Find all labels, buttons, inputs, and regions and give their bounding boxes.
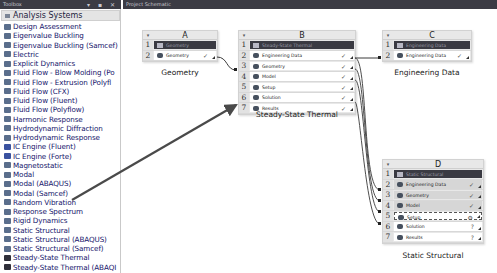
- tool-item-response-spectrum[interactable]: Response Spectrum: [3, 207, 120, 216]
- tool-item-fluid-flow-extrusion[interactable]: Fluid Flow - Extrusion (Polyfl: [3, 78, 120, 87]
- tool-item-rigid-dynamics[interactable]: Rigid Dynamics: [3, 216, 120, 225]
- model-icon: [397, 203, 403, 208]
- connector-handle-icon[interactable]: [350, 87, 353, 90]
- cell-d3-geometry[interactable]: 3Geometry✓: [383, 190, 483, 201]
- tool-item-label: Eigenvalue Buckling: [13, 31, 84, 40]
- cell-text: Steady-State Thermal: [262, 41, 312, 51]
- check-icon: ✓: [341, 62, 346, 72]
- cell-a1[interactable]: 1Geometry: [143, 40, 217, 51]
- connector-handle-icon[interactable]: [466, 56, 469, 59]
- system-menu-arrow-icon[interactable]: ▾: [383, 31, 393, 40]
- connector-handle-icon[interactable]: [478, 206, 481, 209]
- tool-item-hydrodynamic-response[interactable]: Hydrodynamic Response: [3, 133, 120, 142]
- connector-handle-icon[interactable]: [350, 98, 353, 101]
- cell-c2-engineering-data[interactable]: 2Engineering Data✓: [383, 51, 471, 62]
- cell-b3-geometry[interactable]: 3Geometry✓: [239, 61, 355, 72]
- connector-handle-icon[interactable]: [477, 215, 480, 218]
- engineering-data-system-icon: [397, 43, 403, 48]
- connector-handle-icon[interactable]: [212, 56, 215, 59]
- tool-item-design-assessment[interactable]: Design Assessment: [3, 22, 120, 31]
- thermal-system-icon: [253, 43, 259, 48]
- system-menu-arrow-icon[interactable]: ▾: [143, 31, 153, 40]
- tool-item-fluid-flow-fluent[interactable]: Fluid Flow (Fluent): [3, 96, 120, 105]
- cell-text: Engineering Data: [262, 51, 302, 61]
- connector-handle-icon[interactable]: [350, 77, 353, 80]
- cell-c1[interactable]: 1Engineering Data: [383, 40, 471, 51]
- cell-b2-engineering-data[interactable]: 2Engineering Data✓: [239, 51, 355, 62]
- geometry-system-icon: [157, 43, 163, 48]
- tool-item-electric[interactable]: Electric: [3, 50, 120, 59]
- cell-b1[interactable]: 1Steady-State Thermal: [239, 40, 355, 51]
- connector-handle-icon[interactable]: [478, 185, 481, 188]
- row-number: 4: [383, 201, 393, 211]
- cell-text: Model: [262, 72, 276, 82]
- tool-item-fluid-flow-blow-molding[interactable]: Fluid Flow - Blow Molding (Po: [3, 68, 120, 77]
- system-header[interactable]: ▾ D: [383, 160, 483, 169]
- cell-b4-model[interactable]: 4Model✓: [239, 72, 355, 83]
- tool-item-label: Magnetostatic: [13, 161, 63, 170]
- tool-item-random-vibration[interactable]: Random Vibration: [3, 198, 120, 207]
- cell-d1[interactable]: 1Static Structural: [383, 169, 483, 180]
- toolbox-panel: Toolbox ▾ ▪ ✕ Analysis Systems Design As…: [0, 0, 121, 273]
- tool-item-modal-abaqus[interactable]: Modal (ABAQUS): [3, 179, 120, 188]
- analysis-icon: [4, 24, 11, 30]
- tool-item-hydrodynamic-diffraction[interactable]: Hydrodynamic Diffraction: [3, 124, 120, 133]
- connector-handle-icon[interactable]: [350, 66, 353, 69]
- tool-item-magnetostatic[interactable]: Magnetostatic: [3, 161, 120, 170]
- tool-item-label: Rigid Dynamics: [13, 216, 67, 225]
- tool-item-ic-engine-fluent[interactable]: IC Engine (Fluent): [3, 142, 120, 151]
- system-header[interactable]: ▾ A: [143, 31, 217, 40]
- system-d-label[interactable]: Static Structural: [382, 251, 484, 260]
- system-c-label[interactable]: Engineering Data: [382, 68, 472, 77]
- analysis-icon: [4, 70, 11, 76]
- connector-handle-icon[interactable]: [478, 227, 481, 230]
- cell-text: Solution: [406, 222, 425, 232]
- tool-item-ic-engine-forte[interactable]: IC Engine (Forte): [3, 152, 120, 161]
- cell-d7-results[interactable]: 7Results?: [383, 232, 483, 243]
- system-a-geometry[interactable]: ▾ A 1Geometry 2Geometry✓: [142, 30, 218, 62]
- tool-item-fluid-flow-polyflow[interactable]: Fluid Flow (Polyflow): [3, 105, 120, 114]
- cell-d5-setup[interactable]: 5Setup⚙: [383, 211, 483, 222]
- cell-d4-model[interactable]: 4Model✓: [383, 201, 483, 212]
- tool-item-fluid-flow-cfx[interactable]: Fluid Flow (CFX): [3, 87, 120, 96]
- tool-item-eigenvalue-buckling-samcef[interactable]: Eigenvalue Buckling (Samcef): [3, 41, 120, 50]
- tool-item-static-structural[interactable]: Static Structural: [3, 226, 120, 235]
- check-icon: ✓: [341, 51, 346, 61]
- cell-d2-engineering-data[interactable]: 2Engineering Data✓: [383, 180, 483, 191]
- connector-handle-icon[interactable]: [478, 237, 481, 240]
- system-c-engineering-data[interactable]: ▾ C 1Engineering Data 2Engineering Data✓: [382, 30, 472, 62]
- cell-a2-geometry[interactable]: 2Geometry✓: [143, 51, 217, 62]
- tool-item-harmonic-response[interactable]: Harmonic Response: [3, 115, 120, 124]
- system-menu-arrow-icon[interactable]: ▾: [239, 31, 249, 40]
- tool-item-steady-state-thermal[interactable]: Steady-State Thermal: [3, 253, 120, 262]
- tool-item-label: Modal (Samcef): [13, 189, 68, 198]
- tool-item-modal-samcef[interactable]: Modal (Samcef): [3, 189, 120, 198]
- tool-item-steady-state-thermal-abaqus[interactable]: Steady-State Thermal (ABAQI: [3, 263, 120, 272]
- connector-handle-icon[interactable]: [478, 195, 481, 198]
- system-b-steady-state-thermal[interactable]: ▾ B 1Steady-State Thermal 2Engineering D…: [238, 30, 356, 115]
- cell-d6-solution[interactable]: 6Solution?: [383, 222, 483, 233]
- toolbox-window-buttons[interactable]: ▾ ▪ ✕: [87, 0, 118, 9]
- system-a-label[interactable]: Geometry: [142, 68, 218, 77]
- tool-item-modal[interactable]: Modal: [3, 170, 120, 179]
- analysis-icon: [4, 218, 11, 224]
- system-d-static-structural[interactable]: ▾ D 1Static Structural 2Engineering Data…: [382, 159, 484, 244]
- tool-item-eigenvalue-buckling[interactable]: Eigenvalue Buckling: [3, 31, 120, 40]
- tool-item-explicit-dynamics[interactable]: Explicit Dynamics: [3, 59, 120, 68]
- system-header[interactable]: ▾ C: [383, 31, 471, 40]
- system-b-label[interactable]: Steady-State Thermal: [238, 110, 356, 119]
- system-header[interactable]: ▾ B: [239, 31, 355, 40]
- analysis-icon: [4, 98, 11, 104]
- toolbox-title-bar: Toolbox ▾ ▪ ✕: [0, 0, 121, 9]
- collapse-icon[interactable]: [5, 14, 10, 18]
- cell-b6-solution[interactable]: 6Solution✓: [239, 93, 355, 104]
- connector-handle-icon[interactable]: [350, 56, 353, 59]
- tool-item-static-structural-samcef[interactable]: Static Structural (Samcef): [3, 244, 120, 253]
- tool-item-static-structural-abaqus[interactable]: Static Structural (ABAQUS): [3, 235, 120, 244]
- tool-item-label: Steady-State Thermal (ABAQI: [13, 263, 116, 272]
- analysis-systems-group[interactable]: Analysis Systems: [1, 10, 120, 21]
- tool-item-label: Response Spectrum: [13, 207, 83, 216]
- solution-icon: [253, 95, 259, 100]
- system-menu-arrow-icon[interactable]: ▾: [383, 160, 393, 169]
- cell-b5-setup[interactable]: 5Setup✓: [239, 82, 355, 93]
